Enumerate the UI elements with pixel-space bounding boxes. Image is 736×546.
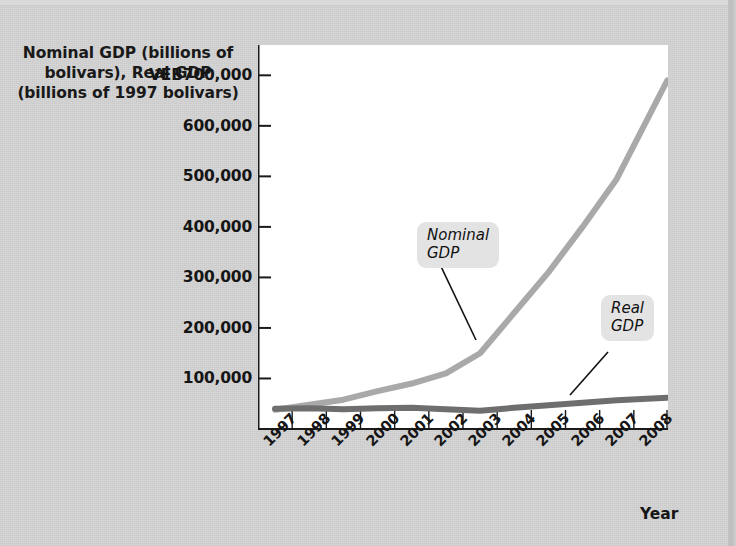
callout-real-gdp: Real GDP	[601, 295, 654, 341]
callout-nominal-gdp: Nominal GDP	[417, 222, 499, 268]
y-axis-tick-labels: VEB700,000600,000500,000400,000300,00020…	[88, 0, 252, 546]
y-tick-label: 300,000	[92, 268, 252, 286]
y-tick-label: 500,000	[92, 167, 252, 185]
y-tick-label: 600,000	[92, 117, 252, 135]
y-tick-label: 200,000	[92, 319, 252, 337]
y-tick-label: VEB700,000	[92, 66, 252, 84]
x-axis-tick-labels: 1997199819992000200120022003200420052006…	[258, 430, 678, 500]
y-tick-label: 400,000	[92, 218, 252, 236]
figure-panel: Nominal GDP (billions of bolivars), Real…	[0, 0, 736, 546]
y-axis-ticks	[259, 75, 271, 378]
x-axis-title: Year	[640, 505, 678, 523]
panel-right-edge	[728, 0, 736, 546]
leader-line-real	[570, 352, 608, 395]
y-tick-label: 100,000	[92, 369, 252, 387]
